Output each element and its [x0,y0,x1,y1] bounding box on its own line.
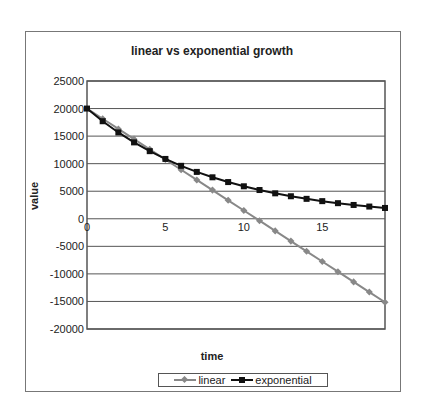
data-point [241,183,247,189]
data-point [304,196,310,202]
y-tick-label: 15000 [53,130,84,142]
y-tick-label: -5000 [56,240,84,252]
series-exponential [87,109,385,208]
data-point [257,187,263,193]
y-tick-label: 25000 [53,75,84,87]
x-axis-label: time [0,350,424,362]
data-point [162,156,168,162]
y-tick-label: -15000 [50,295,84,307]
data-point [272,190,278,196]
data-point [351,202,357,208]
data-point [131,139,137,145]
x-tick-label: 15 [316,221,328,233]
y-tick-label: 20000 [53,103,84,115]
data-point [178,163,184,169]
linear-marker-icon [174,376,196,384]
data-point [288,193,294,199]
exponential-marker-icon [231,376,253,384]
x-tick-label: 0 [84,221,90,233]
data-point [225,179,231,185]
legend-label-exponential: exponential [255,374,311,386]
data-point [115,129,121,135]
legend-item-linear: linear [174,374,225,386]
data-point [100,118,106,124]
data-point [319,198,325,204]
x-tick-label: 5 [162,221,168,233]
x-tick-label: 10 [238,221,250,233]
data-point [209,174,215,180]
data-point [366,204,372,210]
y-tick-label: -20000 [50,323,84,335]
y-axis-label: value [28,182,40,210]
y-tick-label: 10000 [53,158,84,170]
data-point [382,205,388,211]
legend: linear exponential [158,373,328,387]
y-tick-label: 5000 [60,185,84,197]
legend-label-linear: linear [198,374,225,386]
data-point [84,106,90,112]
data-point [335,200,341,206]
legend-item-exponential: exponential [231,374,311,386]
data-point [147,148,153,154]
y-tick-label: -10000 [50,268,84,280]
data-point [194,169,200,175]
